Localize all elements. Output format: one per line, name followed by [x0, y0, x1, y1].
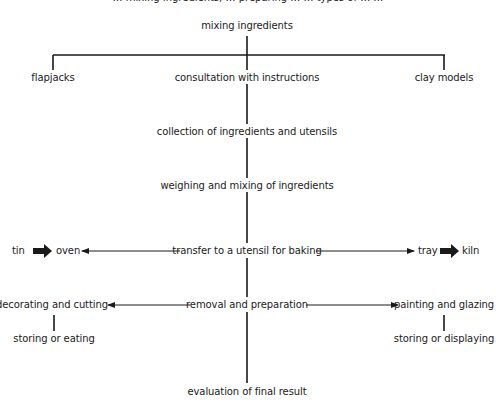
node-weighing: weighing and mixing of ingredients: [160, 180, 333, 192]
node-tray: tray: [418, 245, 438, 257]
node-clay-models: clay models: [415, 72, 474, 84]
node-decorating: decorating and cutting: [0, 299, 108, 311]
node-storing-eating: storing or eating: [13, 333, 94, 345]
node-flapjacks: flapjacks: [31, 72, 74, 84]
node-storing-displaying: storing or displaying: [394, 333, 494, 345]
node-transfer: transfer to a utensil for baking: [172, 245, 321, 257]
node-kiln: kiln: [462, 245, 479, 257]
node-collection: collection of ingredients and utensils: [157, 126, 337, 138]
node-removal: removal and preparation: [186, 299, 308, 311]
node-evaluation: evaluation of final result: [187, 386, 306, 398]
connector-lines: [0, 0, 496, 408]
node-painting: painting and glazing: [394, 299, 494, 311]
node-root: mixing ingredients: [201, 20, 293, 32]
node-consultation: consultation with instructions: [175, 72, 320, 84]
node-tin: tin: [12, 245, 25, 257]
node-oven: oven: [56, 245, 80, 257]
